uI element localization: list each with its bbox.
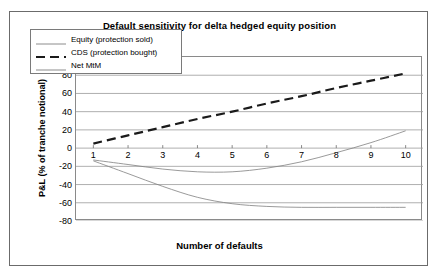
x-tick-label: 8	[334, 150, 339, 160]
legend-item-equity: Equity (protection sold)	[31, 33, 181, 46]
legend-label-cds: CDS (protection bought)	[71, 48, 157, 57]
x-tick-label: 2	[126, 150, 131, 160]
x-tick-label: 9	[368, 150, 373, 160]
y-tick-label: -80	[59, 216, 72, 226]
legend-key-cds-icon	[35, 48, 67, 58]
y-tick-label: 20	[62, 125, 72, 135]
legend-label-equity: Equity (protection sold)	[71, 35, 153, 44]
y-tick-label: 0	[67, 143, 72, 153]
series-line	[93, 73, 405, 143]
x-tick-label: 10	[401, 150, 411, 160]
x-axis-label: Number of defaults	[10, 240, 429, 251]
y-tick-label: -40	[59, 180, 72, 190]
y-tick-label: 60	[62, 88, 72, 98]
legend-item-net-mtm: Net MtM	[31, 59, 181, 72]
y-tick-label: 40	[62, 107, 72, 117]
y-axis-label-text: P&L (% of tranche notional)	[37, 79, 47, 197]
x-tick-label: 3	[160, 150, 165, 160]
chart-frame: Default sensitivity for delta hedged equ…	[9, 11, 428, 266]
series-line	[93, 161, 405, 208]
x-tick-label: 5	[230, 150, 235, 160]
legend-key-equity-icon	[35, 35, 67, 45]
x-tick-label: 1	[91, 150, 96, 160]
y-tick-label: -20	[59, 161, 72, 171]
x-tick-label: 6	[264, 150, 269, 160]
chart-figure: Default sensitivity for delta hedged equ…	[0, 0, 437, 276]
legend-label-net-mtm: Net MtM	[71, 61, 101, 70]
plot-svg	[76, 57, 423, 221]
y-tick-label: -60	[59, 198, 72, 208]
legend-item-cds: CDS (protection bought)	[31, 46, 181, 59]
x-tick-label: 4	[195, 150, 200, 160]
legend-key-net-mtm-icon	[35, 61, 67, 71]
chart-legend: Equity (protection sold) CDS (protection…	[30, 29, 182, 74]
y-axis-label: P&L (% of tranche notional)	[32, 56, 52, 220]
x-tick-label: 7	[299, 150, 304, 160]
plot-area: 100806040200-20-40-60-80 12345678910	[75, 56, 422, 220]
